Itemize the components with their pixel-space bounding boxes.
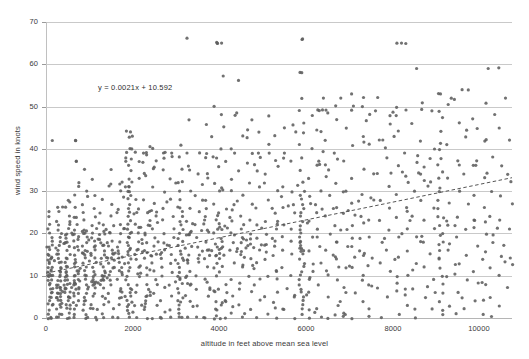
- scatter-chart: 010203040506070 0200040006000800010000 y…: [0, 0, 529, 359]
- x-axis-title: altitude in feet above mean sea level: [0, 339, 529, 348]
- y-axis-title: wind speed in knots: [13, 101, 22, 221]
- trendline: [46, 178, 512, 274]
- regression-equation-label: y = 0.0021x + 10.592: [98, 83, 172, 92]
- trendline-layer: [0, 0, 529, 359]
